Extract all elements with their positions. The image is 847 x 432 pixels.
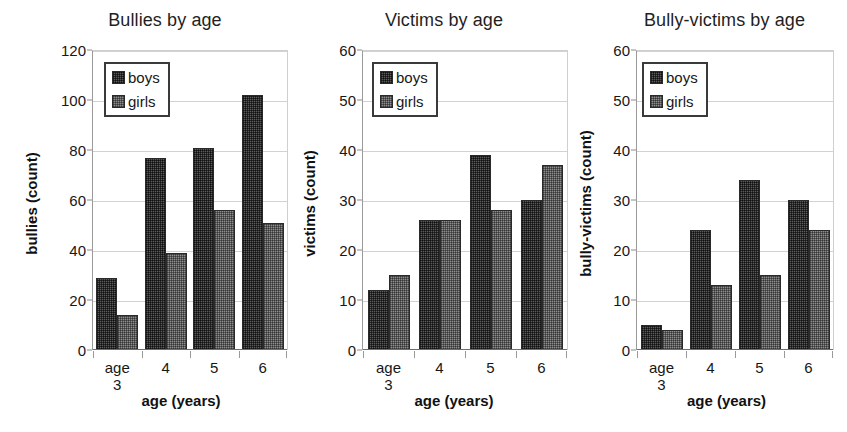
y-tick-label: 100 [61,92,86,109]
girls-swatch-icon [380,95,393,108]
bar-girls [117,315,138,350]
bar-girls [389,275,410,350]
y-tick-label: 40 [339,142,356,159]
y-tick-column: 020406080100120 [58,50,92,350]
bar-girls [809,230,830,350]
x-tick-label: 4 [706,359,714,376]
x-axis-baseline [637,349,833,350]
girls-swatch-icon [112,95,125,108]
x-tick-mark [637,351,638,358]
x-tick-label: 5 [755,359,763,376]
x-tick-label: 5 [486,359,494,376]
y-tick-label: 50 [339,92,356,109]
y-tick-label: 10 [613,292,630,309]
bar-girls [214,210,235,350]
bullying-by-age-figure: Bullies by age bullies (count) 020406080… [0,0,847,432]
y-axis-label: victims (count) [296,48,322,358]
x-tick-label: 6 [804,359,812,376]
y-tick-label: 30 [613,192,630,209]
bar-boys [690,230,711,350]
plot-block: 020406080100120 age 3456 [58,50,288,350]
chart-panel-victims: Victims by age victims (count) 010203040… [290,0,570,432]
y-tick-label: 120 [61,42,86,59]
bar-boys [788,200,809,350]
x-tick-mark [832,351,833,358]
bar-boys [96,278,117,351]
legend: boys girls [372,62,438,117]
x-tick-mark [414,351,415,358]
y-tick-label: 30 [339,192,356,209]
bar-boys [521,200,542,350]
chart-title: Bullies by age [0,10,310,31]
x-tick-mark [190,351,191,358]
plot-block: 0102030405060 age 3456 [602,50,834,350]
x-tick-label: 6 [537,359,545,376]
bar-girls [491,210,512,350]
bar-group [470,51,512,350]
y-axis-label-text: bullies (count) [23,152,40,255]
x-tick-label: 6 [259,359,267,376]
bar-girls [542,165,563,350]
y-axis-label: bullies (count) [18,48,44,358]
x-tick-label: age 3 [376,359,401,393]
y-axis-label-text: bully-victims (count) [577,130,594,277]
y-tick-column: 0102030405060 [328,50,362,350]
x-tick-label: 5 [210,359,218,376]
bar-girls [263,223,284,351]
legend-item-girls: girls [380,94,428,109]
bar-girls [760,275,781,350]
y-tick-label: 0 [78,342,86,359]
chart-title: Victims by age [290,10,584,31]
x-tick-mark [735,351,736,358]
x-tick-mark [465,351,466,358]
chart-panel-bully-victims: Bully-victims by age bully-victims (coun… [570,0,847,432]
x-tick-mark [93,351,94,358]
boys-swatch-icon [380,71,393,84]
bar-boys [470,155,491,350]
legend-label-girls: girls [396,94,424,109]
x-tick-mark [286,351,287,358]
chart-panel-bullies: Bullies by age bullies (count) 020406080… [0,0,290,432]
y-axis-label-text: victims (count) [301,150,318,257]
legend-label-girls: girls [666,94,694,109]
y-tick-label: 20 [339,242,356,259]
plot-block: 0102030405060 age 3456 [328,50,568,350]
bar-girls [711,285,732,350]
x-tick-label: age 3 [649,359,674,393]
chart-title: Bully-victims by age [570,10,847,31]
bar-group [788,51,830,350]
y-tick-label: 40 [69,242,86,259]
x-tick-marks [93,351,287,358]
y-tick-label: 0 [622,342,630,359]
y-tick-label: 10 [339,292,356,309]
legend-label-girls: girls [128,94,156,109]
legend-label-boys: boys [396,70,428,85]
y-tick-label: 20 [69,292,86,309]
x-axis-title: age (years) [290,392,594,409]
legend-item-boys: boys [650,70,698,85]
y-tick-label: 50 [613,92,630,109]
legend-item-girls: girls [112,94,160,109]
legend-item-boys: boys [112,70,160,85]
y-axis-label: bully-victims (count) [572,48,598,358]
x-tick-mark [516,351,517,358]
bar-girls [440,220,461,350]
x-axis-baseline [93,349,287,350]
girls-swatch-icon [650,95,663,108]
y-tick-label: 40 [613,142,630,159]
x-tick-marks [637,351,833,358]
x-tick-mark [363,351,364,358]
legend: boys girls [104,62,170,117]
y-tick-column: 0102030405060 [602,50,636,350]
legend-label-boys: boys [128,70,160,85]
y-tick-label: 80 [69,142,86,159]
legend: boys girls [642,62,708,117]
x-tick-label: 4 [435,359,443,376]
bar-boys [739,180,760,350]
boys-swatch-icon [112,71,125,84]
bar-group [739,51,781,350]
legend-label-boys: boys [666,70,698,85]
x-tick-mark [566,351,567,358]
x-tick-label: age 3 [105,359,130,393]
x-tick-mark [142,351,143,358]
